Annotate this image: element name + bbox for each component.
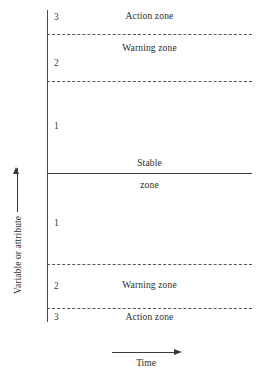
y-axis-arrow-icon (17, 168, 18, 212)
zone-number-1-upper: 1 (54, 122, 59, 132)
zone-number-2-upper: 2 (54, 59, 59, 69)
center-line-stable (47, 173, 252, 174)
y-axis-label-text: Variable or attribute (13, 216, 23, 294)
zone-boundary-line-warning-upper (47, 81, 252, 82)
zone-label-stable-top: Stable (47, 159, 252, 169)
x-axis-label: Time (100, 358, 192, 369)
zone-label-warning-lower: Warning zone (47, 281, 252, 291)
x-axis-arrow-icon (112, 352, 180, 353)
zone-boundary-line-warning-lower (47, 264, 252, 265)
zone-boundary-line-action-lower (47, 308, 252, 309)
y-axis-label: Variable or attribute (10, 114, 26, 294)
control-chart-zone-diagram: Variable or attribute 3 2 1 1 2 3 Action… (0, 0, 272, 380)
zone-boundary-line-action-upper (47, 34, 252, 35)
zone-label-stable-bottom: zone (47, 181, 252, 191)
zone-label-action-lower: Action zone (47, 313, 252, 323)
zone-label-warning-upper: Warning zone (47, 44, 252, 54)
zone-label-action-upper: Action zone (47, 12, 252, 22)
zone-number-1-lower: 1 (54, 219, 59, 229)
